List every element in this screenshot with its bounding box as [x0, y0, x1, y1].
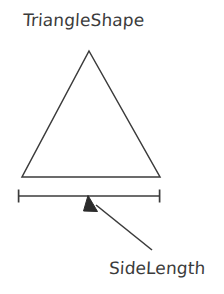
- shape-title-label: TriangleShape: [22, 10, 144, 30]
- callout-arrowhead-icon: [84, 196, 98, 212]
- callout-arrow-group: [84, 196, 153, 251]
- triangle-shape-diagram: TriangleShape SideLength: [0, 0, 224, 294]
- diagram-canvas: [0, 0, 224, 294]
- side-length-label: SideLength: [108, 258, 205, 278]
- triangle-outline-shape: [22, 51, 160, 177]
- callout-leader-line: [96, 205, 152, 250]
